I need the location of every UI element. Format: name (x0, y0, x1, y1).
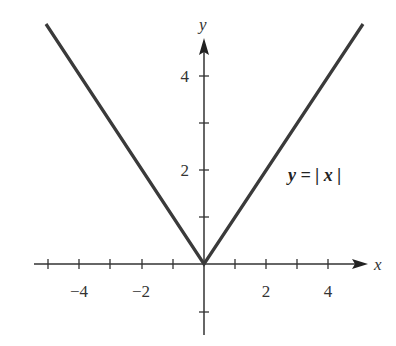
x-tick-label: −4 (70, 282, 89, 301)
chart-figure: −4 −2 2 4 4 2 x y y = | x | (0, 0, 396, 346)
equation-annotation: y = | x | (286, 165, 341, 185)
x-tick-label: 2 (262, 282, 271, 301)
x-tick-label: 4 (324, 282, 333, 301)
y-tick-label: 2 (181, 161, 190, 180)
y-tick-label: 4 (181, 67, 190, 86)
chart-canvas: −4 −2 2 4 4 2 x y y = | x | (0, 0, 396, 346)
x-axis-label: x (373, 255, 382, 274)
x-tick-label: −2 (132, 282, 150, 301)
y-axis-label: y (197, 15, 207, 34)
